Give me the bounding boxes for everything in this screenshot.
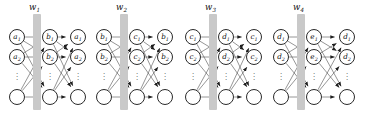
- col-hidden-3-node-1: d1: [218, 29, 234, 45]
- edge: [231, 64, 247, 87]
- block-2-weight-label: w2: [116, 3, 127, 12]
- col-input-2-node-1: b1: [96, 29, 112, 45]
- col-output-2-node-1-label: b1: [161, 33, 169, 40]
- col-output-4-ellipsis: ...: [343, 71, 351, 81]
- edge: [233, 42, 244, 50]
- col-output-2-ellipsis: ...: [161, 71, 169, 81]
- col-hidden-2-node-2-label: c2: [133, 53, 140, 60]
- col-input-3-node-1: c1: [185, 29, 201, 45]
- col-hidden-2-node-3: [129, 89, 145, 105]
- col-output-2-node-2: b2: [157, 49, 173, 65]
- col-output-4-node-2: d2: [339, 49, 355, 65]
- col-output-4-node-2-label: d2: [343, 53, 351, 60]
- col-output-3-node-2-label: c2: [250, 53, 257, 60]
- col-output-1-node-3: [70, 89, 86, 105]
- col-hidden-4-node-1: e1: [306, 29, 322, 45]
- col-hidden-2-node-1-label: c1: [133, 33, 140, 40]
- col-input-2-ellipsis: ...: [100, 71, 108, 81]
- col-hidden-3-node-1-label: d1: [222, 33, 230, 40]
- col-input-1-node-1-label: a1: [13, 33, 20, 40]
- col-input-3-node-2: c2: [185, 49, 201, 65]
- block-4-weight-bar: [297, 14, 305, 110]
- edge: [144, 44, 155, 52]
- col-hidden-4-node-1-label: e1: [310, 33, 317, 40]
- col-hidden-4-ellipsis: ...: [310, 71, 318, 81]
- col-output-3-node-1-label: c1: [250, 33, 257, 40]
- col-input-2-node-1-label: b1: [100, 33, 108, 40]
- col-output-4-node-3: [339, 89, 355, 105]
- col-output-4-node-1: d1: [339, 29, 355, 45]
- col-input-4-node-1-label: d1: [277, 33, 285, 40]
- col-hidden-3-node-2: d2: [218, 49, 234, 65]
- col-input-1-node-3: [9, 89, 25, 105]
- col-input-1-node-1: a1: [9, 29, 25, 45]
- block-4-weight-label: w4: [293, 3, 304, 12]
- col-output-3-node-2: c2: [246, 49, 262, 65]
- col-input-2-node-2-label: b2: [100, 53, 108, 60]
- edge: [321, 43, 336, 52]
- col-output-2-node-3: [157, 89, 173, 105]
- col-input-2-node-3: [96, 89, 112, 105]
- col-hidden-4-node-3: [306, 89, 322, 105]
- col-output-1-node-2-label: a2: [74, 53, 81, 60]
- edge: [229, 44, 248, 85]
- col-output-1-ellipsis: ...: [74, 71, 82, 81]
- col-output-3-node-3: [246, 89, 262, 105]
- block-3-weight-label: w3: [205, 3, 216, 12]
- edge: [233, 44, 244, 52]
- edge: [57, 42, 68, 50]
- edge: [142, 67, 158, 90]
- col-input-4-ellipsis: ...: [277, 71, 285, 81]
- col-hidden-1-node-3: [42, 89, 58, 105]
- col-hidden-2-ellipsis: ...: [133, 71, 141, 81]
- col-hidden-1-node-2: b2: [42, 49, 58, 65]
- col-input-4-node-1: d1: [273, 29, 289, 45]
- col-output-3-node-1: c1: [246, 29, 262, 45]
- col-output-3-ellipsis: ...: [250, 71, 258, 81]
- edge: [57, 44, 68, 52]
- autoencoder-stack-figure: w1a1a2...b1b2...a1a2...w2b1b2...c1c2...b…: [0, 0, 369, 123]
- col-input-2-node-2: b2: [96, 49, 112, 65]
- edge: [318, 44, 341, 86]
- col-hidden-3-node-3: [218, 89, 234, 105]
- col-input-4-node-3: [273, 89, 289, 105]
- col-hidden-1-node-2-label: b2: [46, 53, 54, 60]
- edge: [142, 64, 158, 87]
- col-input-1-node-2-label: a2: [13, 53, 20, 60]
- col-output-1-node-1: a1: [70, 29, 86, 45]
- col-input-3-node-3: [185, 89, 201, 105]
- col-hidden-2-node-1: c1: [129, 29, 145, 45]
- col-input-1-ellipsis: ...: [13, 71, 21, 81]
- col-input-4-node-2-label: d2: [277, 53, 285, 60]
- col-output-4-node-1-label: d1: [343, 33, 351, 40]
- edge: [144, 42, 155, 50]
- block-1-weight-bar: [33, 14, 41, 110]
- edge: [231, 67, 247, 90]
- col-input-3-node-1-label: c1: [189, 33, 196, 40]
- col-output-1-node-1-label: a1: [74, 33, 81, 40]
- col-hidden-1-node-1-label: b1: [46, 33, 54, 40]
- col-hidden-4-node-2: e2: [306, 49, 322, 65]
- col-output-2-node-2-label: b2: [161, 53, 169, 60]
- col-hidden-3-ellipsis: ...: [222, 71, 230, 81]
- col-output-1-node-2: a2: [70, 49, 86, 65]
- edge: [319, 67, 339, 91]
- col-hidden-2-node-2: c2: [129, 49, 145, 65]
- col-input-4-node-2: d2: [273, 49, 289, 65]
- col-input-1-node-2: a2: [9, 49, 25, 65]
- col-output-2-node-1: b1: [157, 29, 173, 45]
- col-hidden-1-node-1: b1: [42, 29, 58, 45]
- edge: [319, 63, 339, 87]
- block-1-weight-label: w1: [29, 3, 40, 12]
- block-2-weight-bar: [120, 14, 128, 110]
- col-input-3-node-2-label: c2: [189, 53, 196, 60]
- edge: [55, 67, 71, 90]
- edge: [321, 41, 336, 50]
- col-hidden-4-node-2-label: e2: [310, 53, 317, 60]
- edge: [140, 44, 159, 85]
- col-hidden-3-node-2-label: d2: [222, 53, 230, 60]
- col-hidden-1-ellipsis: ...: [46, 71, 54, 81]
- edge: [55, 64, 71, 87]
- col-input-3-ellipsis: ...: [189, 71, 197, 81]
- edge: [53, 44, 72, 85]
